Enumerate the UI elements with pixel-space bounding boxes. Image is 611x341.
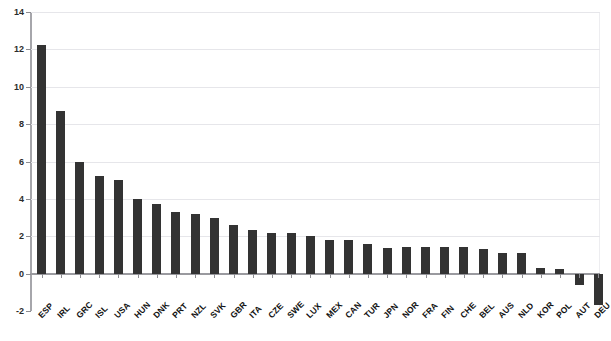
bar-chart: -202468101214 ESPIRLGRCISLUSAHUNDNKPRTNZ…	[0, 0, 611, 341]
bar	[383, 248, 392, 273]
x-tick-mark	[214, 274, 215, 278]
x-tick-mark	[541, 274, 542, 278]
y-tick-label: 14	[14, 7, 24, 17]
x-tick-mark	[502, 274, 503, 278]
bar	[402, 247, 411, 273]
x-tick-mark	[157, 274, 158, 278]
bar	[517, 253, 526, 274]
y-tick-mark	[26, 124, 31, 125]
bar	[498, 253, 507, 274]
y-tick-label: -2	[16, 306, 24, 316]
x-tick-mark	[483, 274, 484, 278]
x-tick-mark	[368, 274, 369, 278]
x-tick-mark	[253, 274, 254, 278]
plot-area: -202468101214	[30, 12, 600, 311]
x-tick-mark	[118, 274, 119, 278]
x-tick-mark	[426, 274, 427, 278]
bar	[421, 247, 430, 273]
y-tick-mark	[26, 49, 31, 50]
bar	[287, 233, 296, 273]
x-tick-mark	[522, 274, 523, 278]
bar	[95, 176, 104, 273]
x-tick-mark	[579, 274, 580, 278]
bar	[37, 45, 46, 274]
x-tick-mark	[61, 274, 62, 278]
y-tick-label: 6	[19, 157, 24, 167]
gridline	[30, 87, 600, 88]
x-tick-mark	[310, 274, 311, 278]
x-axis-labels: ESPIRLGRCISLUSAHUNDNKPRTNZLSVKGBRITACZES…	[30, 313, 600, 341]
bar	[440, 247, 449, 273]
gridline	[30, 12, 600, 13]
gridline	[30, 162, 600, 163]
bar	[191, 214, 200, 274]
gridline	[30, 124, 600, 125]
x-tick-mark	[464, 274, 465, 278]
bar	[210, 218, 219, 274]
x-tick-mark	[272, 274, 273, 278]
y-tick-label: 0	[19, 269, 24, 279]
y-tick-mark	[26, 162, 31, 163]
bar	[248, 230, 257, 274]
y-tick-label: 8	[19, 119, 24, 129]
bar	[325, 240, 334, 274]
y-tick-mark	[26, 236, 31, 237]
y-tick-mark	[26, 12, 31, 13]
y-tick-label: 4	[19, 194, 24, 204]
x-tick-mark	[99, 274, 100, 278]
x-tick-mark	[406, 274, 407, 278]
x-tick-mark	[138, 274, 139, 278]
x-tick-mark	[291, 274, 292, 278]
bar	[152, 204, 161, 273]
y-tick-mark	[26, 274, 31, 275]
x-tick-mark	[445, 274, 446, 278]
bar	[306, 236, 315, 273]
y-tick-mark	[26, 87, 31, 88]
bar	[114, 180, 123, 273]
gridline	[30, 49, 600, 50]
x-tick-mark	[560, 274, 561, 278]
bar	[75, 162, 84, 273]
bar	[56, 111, 65, 274]
bar	[594, 274, 603, 306]
bar	[171, 212, 180, 274]
y-tick-mark	[26, 199, 31, 200]
y-tick-mark	[26, 311, 31, 312]
x-tick-mark	[330, 274, 331, 278]
x-tick-mark	[234, 274, 235, 278]
x-tick-mark	[42, 274, 43, 278]
bar	[479, 249, 488, 273]
bar	[344, 240, 353, 274]
y-tick-label: 10	[14, 82, 24, 92]
x-tick-mark	[195, 274, 196, 278]
x-tick-mark	[176, 274, 177, 278]
bar	[363, 244, 372, 274]
x-tick-mark	[387, 274, 388, 278]
bar	[229, 225, 238, 274]
bar	[459, 247, 468, 273]
y-tick-label: 12	[14, 44, 24, 54]
bar	[133, 199, 142, 274]
y-tick-label: 2	[19, 231, 24, 241]
bar	[267, 233, 276, 274]
x-tick-mark	[598, 274, 599, 278]
x-tick-mark	[80, 274, 81, 278]
x-tick-mark	[349, 274, 350, 278]
